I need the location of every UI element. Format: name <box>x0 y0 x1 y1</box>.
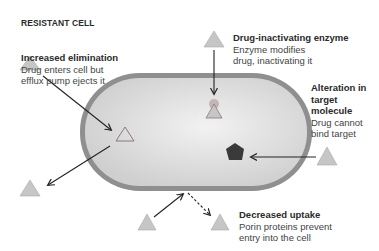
label-title: Increased elimination <box>21 52 118 64</box>
drug-triangle-outside-target <box>317 147 337 165</box>
label-desc-line: efflux pump ejects it <box>21 75 118 87</box>
diagram-heading: RESISTANT CELL <box>21 18 95 28</box>
label-title-line: molecule <box>311 105 366 117</box>
label-alteration-in-target: Alteration in target molecule Drug canno… <box>311 82 366 140</box>
drug-triangle-ejected <box>20 180 40 196</box>
cell-interior <box>85 78 307 186</box>
label-desc-line: Porin proteins prevent <box>239 221 332 233</box>
label-decreased-uptake: Decreased uptake Porin proteins prevent … <box>239 209 332 244</box>
label-drug-inactivating-enzyme: Drug-inactivating enzyme Enzyme modifies… <box>233 32 349 67</box>
drug-triangle-uptake-right <box>211 214 229 230</box>
drug-triangle-uptake-left <box>138 214 156 230</box>
label-increased-elimination: Increased elimination Drug enters cell b… <box>21 52 118 87</box>
label-title: Drug-inactivating enzyme <box>233 32 349 44</box>
label-desc-line: Enzyme modifies <box>233 44 349 56</box>
arrow-porin-blocked <box>188 193 210 215</box>
drug-triangle-outside-enzyme <box>204 31 224 47</box>
label-title-line: Alteration in <box>311 82 366 94</box>
label-desc-line: drug, inactivating it <box>233 55 349 67</box>
label-title: Decreased uptake <box>239 209 332 221</box>
label-desc-line: Drug cannot <box>311 117 366 129</box>
label-desc-line: Drug enters cell but <box>21 64 118 76</box>
label-desc-line: entry into the cell <box>239 232 332 244</box>
label-title-line: target <box>311 94 366 106</box>
label-desc-line: bind target <box>311 128 366 140</box>
bacterial-cell <box>80 73 312 191</box>
arrow-toward-porin <box>154 194 183 217</box>
